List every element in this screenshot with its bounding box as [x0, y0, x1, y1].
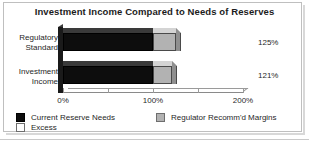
legend-label-regulator-margins: Regulator Recomm'd Margins — [171, 113, 277, 122]
legend-label-excess: Excess — [31, 123, 57, 132]
legend-label-current-reserve-needs: Current Reserve Needs — [31, 113, 115, 122]
legend-swatch-regulator-margins — [156, 113, 165, 122]
legend-swatch-excess — [16, 123, 25, 132]
legend-swatch-current-reserve-needs — [16, 113, 25, 122]
chart-legend: Current Reserve Needs Excess Regulator R… — [0, 0, 309, 145]
chart-container: Investment Income Compared to Needs of R… — [0, 0, 309, 145]
